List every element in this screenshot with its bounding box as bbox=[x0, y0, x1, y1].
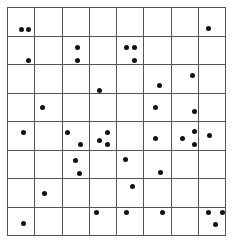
dot bbox=[180, 136, 185, 141]
dot bbox=[190, 73, 195, 78]
dot bbox=[105, 130, 110, 135]
dot bbox=[132, 58, 137, 63]
dot bbox=[105, 142, 110, 147]
grid-horizontal-line bbox=[7, 150, 226, 151]
dot bbox=[157, 83, 162, 88]
dot bbox=[153, 136, 158, 141]
grid-horizontal-line bbox=[7, 64, 226, 65]
dot-grid bbox=[7, 7, 226, 236]
dot bbox=[78, 142, 83, 147]
dot bbox=[213, 222, 218, 227]
dot bbox=[123, 157, 128, 162]
dot bbox=[192, 109, 197, 114]
dot bbox=[160, 210, 165, 215]
grid-horizontal-line bbox=[7, 178, 226, 179]
dot bbox=[75, 45, 80, 50]
dot bbox=[21, 130, 26, 135]
dot bbox=[77, 171, 82, 176]
grid-horizontal-line bbox=[7, 235, 226, 236]
dot bbox=[26, 27, 31, 32]
dot bbox=[94, 210, 99, 215]
dot bbox=[132, 45, 137, 50]
grid-horizontal-line bbox=[7, 7, 226, 8]
dot bbox=[158, 170, 163, 175]
dot bbox=[153, 105, 158, 110]
dot bbox=[19, 27, 24, 32]
grid-horizontal-line bbox=[7, 207, 226, 208]
dot bbox=[21, 221, 26, 226]
dot bbox=[124, 210, 129, 215]
dot bbox=[42, 191, 47, 196]
dot bbox=[26, 58, 31, 63]
dot bbox=[97, 138, 102, 143]
dot bbox=[73, 158, 78, 163]
dot bbox=[40, 105, 45, 110]
dot bbox=[130, 184, 135, 189]
dot bbox=[192, 142, 197, 147]
dot bbox=[75, 58, 80, 63]
dot bbox=[206, 26, 211, 31]
dot bbox=[97, 88, 102, 93]
dot bbox=[207, 133, 212, 138]
grid-horizontal-line bbox=[7, 93, 226, 94]
dot bbox=[192, 129, 197, 134]
dot bbox=[220, 210, 225, 215]
dot bbox=[65, 130, 70, 135]
dot bbox=[124, 45, 129, 50]
grid-horizontal-line bbox=[7, 36, 226, 37]
dot bbox=[206, 210, 211, 215]
grid-horizontal-line bbox=[7, 121, 226, 122]
